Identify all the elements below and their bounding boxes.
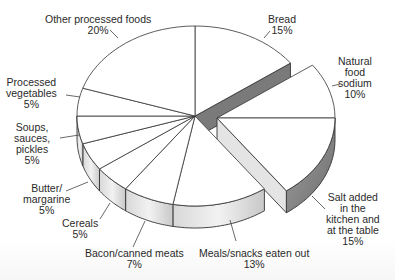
label-line: 5%: [14, 155, 50, 166]
label-cereals: Cereals5%: [62, 218, 98, 240]
label-natural-food-sodium: Naturalfoodsodium10%: [338, 56, 372, 100]
label-line: 20%: [45, 25, 151, 36]
label-processed-vegetables: Processedvegetables5%: [6, 77, 57, 110]
leader-salt: [312, 196, 325, 209]
leader-cereals: [100, 203, 110, 219]
leader-procveg: [66, 95, 80, 97]
label-line: 10%: [338, 89, 372, 100]
label-butter-margarine: Butter/margarine5%: [23, 183, 70, 216]
label-salt-added: Salt addedin thekitchen andat the table1…: [326, 192, 380, 247]
label-line: 5%: [23, 205, 70, 216]
label-line: 13%: [199, 259, 309, 270]
label-soups-sauces-pickles: Soups,sauces,pickles5%: [14, 122, 50, 166]
label-line: 5%: [6, 99, 57, 110]
label-bacon-canned-meats: Bacon/canned meats7%: [85, 248, 184, 270]
label-other-processed-foods: Other processed foods20%: [45, 14, 151, 36]
label-line: 5%: [62, 229, 98, 240]
leader-bacon: [133, 221, 145, 247]
label-meals-snacks-eaten-out: Meals/snacks eaten out13%: [199, 248, 309, 270]
label-line: 15%: [268, 25, 296, 36]
label-bread: Bread15%: [268, 14, 296, 36]
label-line: 15%: [326, 236, 380, 247]
label-line: 7%: [85, 259, 184, 270]
leader-soups: [60, 135, 79, 138]
